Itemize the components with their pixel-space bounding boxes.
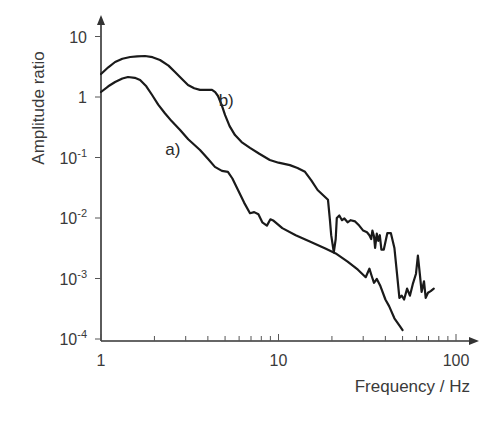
y-tick-label: 10-3	[59, 268, 87, 288]
y-tick-base: 10	[69, 29, 87, 46]
y-tick-exponent: -2	[77, 207, 87, 219]
y-axis-title: Amplitude ratio	[29, 51, 48, 164]
x-axis-title: Frequency / Hz	[355, 377, 470, 396]
axes	[101, 20, 474, 341]
x-ticks: 110100	[97, 334, 470, 369]
series-label-b: b)	[219, 91, 234, 110]
y-tick-base: 10	[59, 210, 77, 227]
y-tick-base: 10	[59, 271, 77, 288]
y-tick-label: 1	[78, 89, 87, 106]
y-tick-base: 10	[59, 331, 77, 348]
series-line-a	[101, 77, 403, 330]
y-tick-label: 10-2	[59, 207, 87, 227]
y-tick-label: 10-1	[59, 147, 87, 167]
x-tick-label: 100	[443, 352, 470, 369]
series-label-a: a)	[165, 140, 180, 159]
y-tick-exponent: -3	[77, 268, 87, 280]
y-tick-base: 1	[78, 89, 87, 106]
chart: 10110-110-210-310-4 110100 a)b) Amplitud…	[0, 0, 486, 421]
y-tick-exponent: -1	[77, 147, 87, 159]
y-tick-label: 10-4	[59, 328, 87, 348]
x-tick-label: 1	[97, 352, 106, 369]
y-tick-label: 10	[69, 29, 87, 46]
series-group: a)b)	[101, 56, 434, 330]
y-tick-base: 10	[59, 150, 77, 167]
x-tick-label: 10	[270, 352, 288, 369]
y-tick-exponent: -4	[77, 328, 87, 340]
y-ticks: 10110-110-210-310-4	[59, 29, 101, 349]
